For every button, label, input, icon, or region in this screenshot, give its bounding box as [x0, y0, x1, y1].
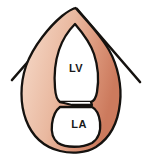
lv-label: LV — [69, 62, 83, 74]
heart-diagram-svg: LV LA — [0, 0, 148, 159]
la-label: LA — [71, 118, 86, 130]
heart-diagram-figure: LV LA — [0, 0, 148, 159]
